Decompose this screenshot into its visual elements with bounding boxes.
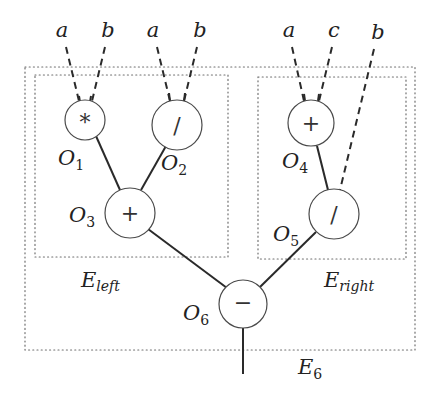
node-symbol: * bbox=[80, 110, 91, 135]
edge-o3-to-o6 bbox=[148, 229, 227, 288]
node-symbol: / bbox=[173, 113, 181, 138]
input-label-b: b bbox=[371, 20, 384, 44]
edge-a-to-o2 bbox=[157, 47, 170, 101]
stub bbox=[184, 93, 185, 101]
edge-a-to-o4 bbox=[292, 47, 304, 101]
edge-o4-to-o5 bbox=[317, 146, 328, 190]
edge-b-to-o1 bbox=[92, 47, 105, 101]
input-label-a: a bbox=[283, 18, 296, 42]
edge-o1-to-o3 bbox=[96, 136, 120, 190]
region-label-e-right: Eright bbox=[323, 268, 374, 294]
stub bbox=[304, 94, 305, 101]
node-o3: + bbox=[105, 188, 155, 238]
node-label-o2: O2 bbox=[161, 151, 187, 178]
node-label-o6: O6 bbox=[183, 301, 209, 328]
edge-b-to-o2 bbox=[184, 47, 197, 101]
node-o5: / bbox=[309, 189, 359, 239]
node-o1: * bbox=[65, 100, 105, 140]
node-o6: − bbox=[219, 280, 267, 328]
node-symbol: / bbox=[330, 202, 338, 227]
node-o2: / bbox=[152, 100, 202, 150]
node-label-o3: O3 bbox=[69, 203, 95, 230]
node-symbol: + bbox=[121, 201, 139, 226]
node-o4: + bbox=[288, 100, 334, 146]
region-label-e-left: Eleft bbox=[80, 268, 120, 294]
node-symbol: + bbox=[302, 111, 320, 136]
node-label-o1: O1 bbox=[58, 146, 84, 173]
input-label-a: a bbox=[147, 18, 160, 42]
node-label-o4: O4 bbox=[282, 149, 308, 176]
stub bbox=[169, 93, 170, 101]
stub bbox=[318, 94, 319, 101]
node-label-o5: O5 bbox=[273, 222, 299, 249]
input-label-b: b bbox=[101, 18, 114, 42]
edge-b-to-o5 bbox=[340, 49, 374, 190]
region-label-e6: E6 bbox=[297, 355, 322, 382]
input-label-b: b bbox=[193, 18, 206, 42]
edge-c-to-o4 bbox=[319, 47, 332, 101]
edge-a-to-o1 bbox=[66, 47, 79, 101]
node-symbol: − bbox=[234, 290, 252, 315]
expression-tree-diagram: * / + + / − a b a b a c b O1 O2 O3 O4 O5… bbox=[0, 0, 432, 394]
input-label-c: c bbox=[328, 18, 340, 42]
input-label-a: a bbox=[56, 18, 69, 42]
